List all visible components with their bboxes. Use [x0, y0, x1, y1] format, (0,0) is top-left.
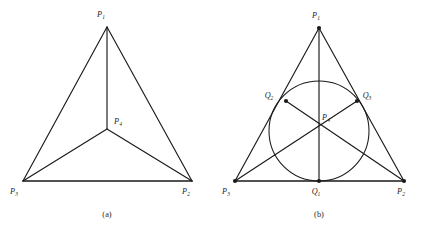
figure-root: P1 P2 P3 P4 (a) [0, 0, 424, 230]
panel-a-labels: P1 P2 P3 P4 [9, 10, 190, 197]
vertex-label-P4: P4 [113, 117, 122, 127]
segment-P4-P3 [23, 129, 107, 181]
vertex-label-P2: P2 [181, 187, 190, 197]
panel-b: P1 P2 P3 P4 Q1 Q2 Q3 (b) [212, 0, 424, 230]
vertex-label-P1: P1 [96, 10, 105, 20]
edge-P1-P3 [23, 27, 107, 181]
cevian-P3-Q3 [235, 101, 357, 181]
edge-P1-P2 [107, 27, 192, 181]
vertex-dot-P1 [317, 26, 321, 30]
vertex-label-P2: P2 [396, 187, 405, 197]
vertex-label-P3: P3 [221, 187, 230, 197]
vertex-label-P3: P3 [9, 187, 18, 197]
panel-a: P1 P2 P3 P4 (a) [0, 0, 212, 230]
panel-a-inner-segments [23, 27, 192, 181]
cevian-P2-Q2 [286, 101, 404, 181]
tangency-label-Q2: Q2 [265, 91, 274, 101]
vertex-label-P4: P4 [321, 113, 330, 123]
tangency-label-Q3: Q3 [363, 91, 372, 101]
tangency-dot-Q1 [317, 179, 321, 183]
vertex-dot-P3 [233, 179, 237, 183]
vertex-dot-P2 [402, 179, 406, 183]
tangency-dot-Q3 [355, 99, 359, 103]
vertex-label-P1: P1 [311, 11, 320, 21]
tangency-dot-Q2 [284, 99, 288, 103]
panel-b-cevians [235, 28, 404, 181]
tangency-label-Q1: Q1 [312, 187, 321, 197]
segment-P4-P2 [107, 129, 192, 181]
panel-b-caption: (b) [314, 210, 324, 219]
panel-a-caption: (a) [102, 210, 112, 219]
